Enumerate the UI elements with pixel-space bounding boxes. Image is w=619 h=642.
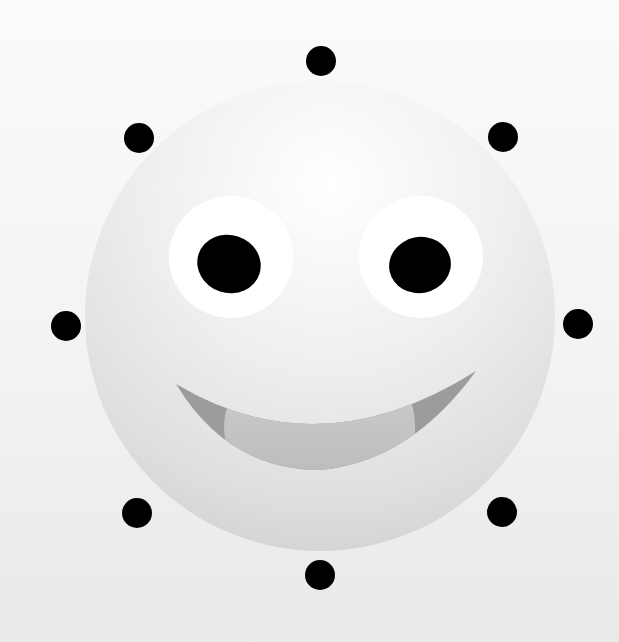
ray-dot-top bbox=[306, 46, 336, 76]
ray-dot-bottom-right bbox=[487, 497, 517, 527]
ray-dot-bottom bbox=[305, 560, 335, 590]
sun-sphere bbox=[85, 81, 555, 551]
ray-dot-left bbox=[51, 311, 81, 341]
smiley-sun-illustration bbox=[0, 0, 619, 642]
ray-dot-top-left bbox=[124, 123, 154, 153]
right-eye bbox=[359, 196, 483, 318]
ray-dot-bottom-left bbox=[122, 498, 152, 528]
ray-dot-top-right bbox=[488, 122, 518, 152]
ray-dot-right bbox=[563, 309, 593, 339]
sun-face-svg bbox=[0, 0, 619, 642]
left-eye bbox=[169, 196, 293, 318]
